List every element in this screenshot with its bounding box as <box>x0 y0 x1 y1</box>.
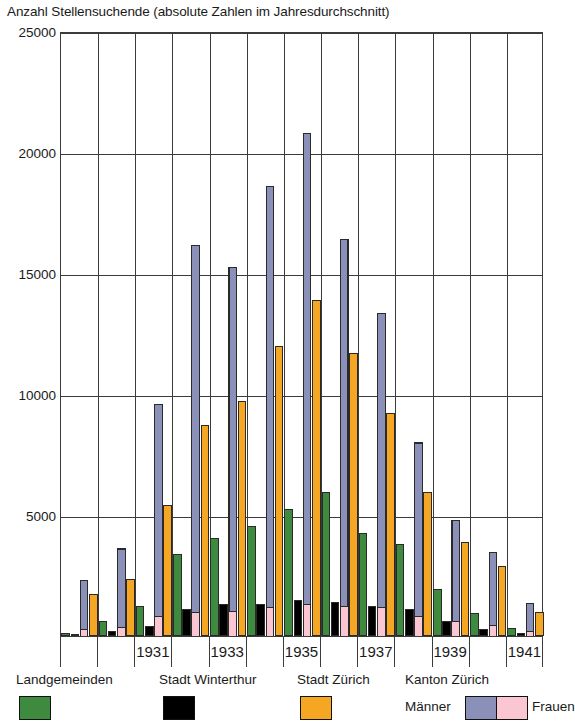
bar-winterthur-1941 <box>517 633 526 636</box>
bar-stadt-zuerich-1936 <box>349 353 358 636</box>
bar-kanton-zuerich-1941 <box>526 603 535 636</box>
legend-label-maenner: Männer <box>405 699 451 714</box>
bar-winterthur-1929 <box>71 634 80 636</box>
legend-swatch-frauen <box>496 696 528 720</box>
bar-kanton-zuerich-1940 <box>489 552 498 636</box>
bar-landgemeinden-1936 <box>322 492 331 636</box>
bar-stadt-zuerich-1933 <box>238 401 247 636</box>
bar-stadt-zuerich-1930 <box>126 579 135 636</box>
legend-swatch-landgemeinden <box>19 696 51 720</box>
bar-landgemeinden-1934 <box>247 526 256 636</box>
chart-title: Anzahl Stellensuchende (absolute Zahlen … <box>7 4 390 19</box>
bar-kanton-zuerich-1936 <box>340 239 349 636</box>
bar-landgemeinden-1941 <box>507 628 516 636</box>
x-tick-mark-4 <box>209 637 210 667</box>
plot-area <box>60 32 543 637</box>
legend-label-winterthur: Stadt Winterthur <box>159 672 257 687</box>
bar-group-1939 <box>433 33 470 636</box>
legend-swatch-stadt-zuerich <box>300 696 332 720</box>
bar-group-1937 <box>358 33 395 636</box>
x-tick-label-1935: 1935 <box>285 643 318 660</box>
y-tick-label-20000: 20000 <box>0 146 56 161</box>
x-tick-label-1931: 1931 <box>136 643 169 660</box>
x-axis: 193119331935193719391941 <box>60 637 543 667</box>
x-tick-label-1939: 1939 <box>433 643 466 660</box>
bar-group-1932 <box>172 33 209 636</box>
bar-stadt-zuerich-1939 <box>461 542 470 636</box>
y-tick-label-25000: 25000 <box>0 25 56 40</box>
bar-winterthur-1934 <box>256 604 265 636</box>
bar-winterthur-1938 <box>405 609 414 636</box>
bar-kanton-zuerich-1934 <box>266 186 275 636</box>
bar-stadt-zuerich-1938 <box>423 492 432 636</box>
bar-segment-maenner-1931 <box>154 404 162 617</box>
x-tick-label-1937: 1937 <box>359 643 392 660</box>
bar-landgemeinden-1940 <box>470 613 479 636</box>
x-tick-mark-8 <box>357 637 358 667</box>
chart-legend: Landgemeinden Stadt Winterthur Stadt Zür… <box>0 672 550 722</box>
bar-stadt-zuerich-1931 <box>163 505 172 636</box>
bar-segment-maenner-1941 <box>526 603 534 632</box>
x-tick-label-1941: 1941 <box>508 643 541 660</box>
bar-group-1929 <box>61 33 98 636</box>
bar-segment-maenner-1930 <box>117 549 125 629</box>
legend-label-stadt-zuerich: Stadt Zürich <box>297 672 370 687</box>
bar-kanton-zuerich-1932 <box>191 245 200 636</box>
x-tick-mark-10 <box>432 637 433 667</box>
bar-stadt-zuerich-1940 <box>498 566 507 636</box>
bar-segment-maenner-1938 <box>414 443 422 617</box>
legend-label-kanton-zuerich: Kanton Zürich <box>405 672 489 687</box>
bar-winterthur-1931 <box>145 626 154 636</box>
bar-stadt-zuerich-1934 <box>275 346 284 636</box>
bar-landgemeinden-1933 <box>210 538 219 636</box>
bar-winterthur-1932 <box>182 609 191 636</box>
x-tick-mark-5 <box>246 637 247 667</box>
bar-segment-maenner-1936 <box>340 239 348 607</box>
x-tick-mark-2 <box>134 637 135 667</box>
bar-landgemeinden-1937 <box>359 533 368 636</box>
bar-kanton-zuerich-1930 <box>117 548 126 636</box>
legend-swatch-maenner <box>465 696 497 720</box>
bar-landgemeinden-1929 <box>61 633 70 636</box>
bar-stadt-zuerich-1932 <box>201 425 210 636</box>
bar-winterthur-1936 <box>331 602 340 636</box>
bar-segment-maenner-1935 <box>303 133 311 605</box>
bar-segment-maenner-1934 <box>266 186 274 608</box>
x-tick-mark-3 <box>171 637 172 667</box>
bar-group-1931 <box>135 33 172 636</box>
bar-group-1936 <box>321 33 358 636</box>
bar-kanton-zuerich-1933 <box>228 267 237 636</box>
x-tick-label-1933: 1933 <box>211 643 244 660</box>
bar-landgemeinden-1939 <box>433 589 442 636</box>
x-tick-mark-6 <box>283 637 284 667</box>
x-tick-mark-12 <box>506 637 507 667</box>
bar-segment-maenner-1937 <box>377 313 385 608</box>
bar-segment-maenner-1929 <box>80 580 88 630</box>
x-tick-mark-9 <box>394 637 395 667</box>
bar-segment-maenner-1932 <box>191 245 199 613</box>
bar-landgemeinden-1938 <box>396 544 405 636</box>
bar-group-1930 <box>98 33 135 636</box>
bar-group-1940 <box>470 33 507 636</box>
bar-landgemeinden-1930 <box>99 621 108 636</box>
bar-kanton-zuerich-1938 <box>414 442 423 636</box>
bar-landgemeinden-1931 <box>136 606 145 636</box>
bar-group-1941 <box>507 33 544 636</box>
bar-kanton-zuerich-1937 <box>377 313 386 636</box>
x-tick-mark-1 <box>97 637 98 667</box>
bar-stadt-zuerich-1935 <box>312 300 321 636</box>
bar-group-1938 <box>395 33 432 636</box>
legend-label-landgemeinden: Landgemeinden <box>16 672 113 687</box>
bar-landgemeinden-1932 <box>173 554 182 636</box>
bar-segment-maenner-1940 <box>489 552 497 626</box>
x-tick-mark-0 <box>60 637 61 667</box>
bar-winterthur-1939 <box>442 621 451 636</box>
x-tick-mark-11 <box>469 637 470 667</box>
bar-stadt-zuerich-1937 <box>386 413 395 636</box>
x-tick-mark-7 <box>320 637 321 667</box>
bar-kanton-zuerich-1929 <box>80 580 89 636</box>
y-tick-label-5000: 5000 <box>0 509 56 524</box>
bar-kanton-zuerich-1939 <box>451 520 460 636</box>
x-tick-mark-13 <box>542 637 543 667</box>
